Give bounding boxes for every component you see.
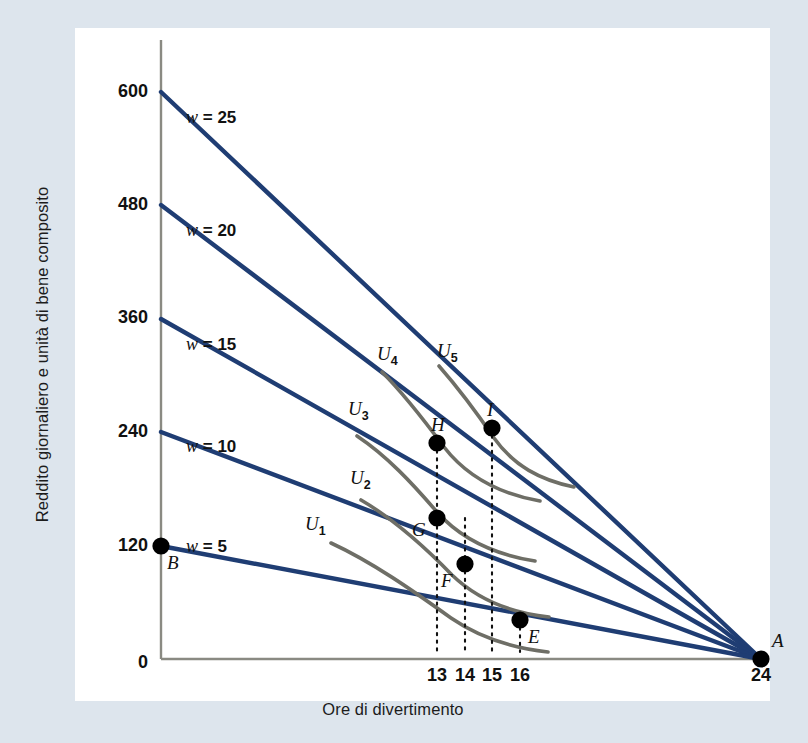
point-E [511,611,528,628]
point-label-H: H [431,414,445,436]
wage-symbol: w [186,436,198,456]
y-tick-240: 240 [88,421,148,442]
budget-line-w25 [161,92,761,659]
curve-label-u1: U1 [305,513,326,538]
point-label-A: A [772,630,784,652]
y-tick-480: 480 [88,194,148,215]
budget-line-w20 [161,205,761,659]
wage-value-10: = 10 [203,437,237,456]
y-tick-360: 360 [88,307,148,328]
u-index-2: 2 [364,478,371,492]
budget-lines [161,92,761,659]
wage-value-25: = 25 [203,108,237,127]
wage-value-5: = 5 [203,537,227,556]
curve-label-u2: U2 [350,467,371,492]
wage-symbol: w [186,536,198,556]
u-letter: U [377,343,391,364]
curve-label-u5: U5 [437,340,458,365]
wage-symbol: w [186,107,198,127]
budget-line-w15 [161,319,761,659]
y-tick-600: 600 [88,81,148,102]
y-tick-0: 0 [88,652,148,673]
u-index-5: 5 [451,351,458,365]
u-letter: U [437,340,451,361]
u-index-1: 1 [319,524,326,538]
wage-label-w10: w = 10 [186,436,236,457]
curve-label-u3: U3 [348,398,369,423]
point-label-I: I [487,399,493,421]
point-F [456,555,473,572]
x-axis-title: Ore di divertimento [322,700,463,719]
point-label-F: F [441,570,453,592]
wage-label-w25: w = 25 [186,107,236,128]
wage-value-20: = 20 [203,221,237,240]
u-letter: U [305,513,319,534]
figure-container: 600 480 360 240 120 0 13 14 15 16 24 w =… [0,0,808,743]
x-tick-16: 16 [498,665,542,686]
wage-symbol: w [186,334,198,354]
u-letter: U [348,398,362,419]
curve-label-u4: U4 [377,343,398,368]
wage-label-w15: w = 15 [186,334,236,355]
point-H [428,434,445,451]
chart-canvas [0,0,808,743]
u-index-4: 4 [391,354,398,368]
point-label-E: E [528,626,540,648]
x-tick-24: 24 [739,665,783,686]
point-G [428,509,445,526]
wage-value-15: = 15 [203,335,237,354]
wage-symbol: w [186,220,198,240]
u-letter: U [350,467,364,488]
point-label-G: G [412,519,426,541]
point-I [483,419,500,436]
wage-label-w20: w = 20 [186,220,236,241]
wage-label-w5: w = 5 [186,536,227,557]
u-index-3: 3 [362,409,369,423]
point-label-B: B [167,552,179,574]
y-axis-title: Reddito giornaliero e unità di bene comp… [33,145,52,565]
y-tick-120: 120 [88,535,148,556]
